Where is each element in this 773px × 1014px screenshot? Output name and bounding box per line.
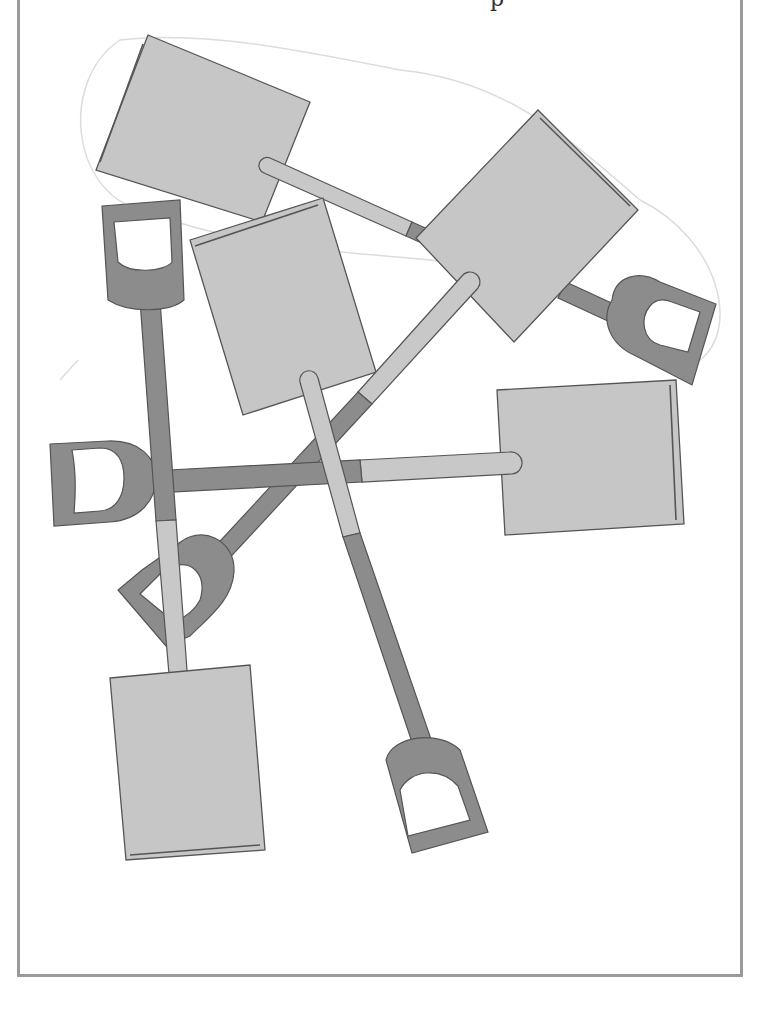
shovels-illustration [0, 0, 773, 1014]
shovel-top-right [416, 110, 716, 385]
shovel-diagonal [300, 371, 488, 853]
sketch-stroke [60, 360, 78, 380]
